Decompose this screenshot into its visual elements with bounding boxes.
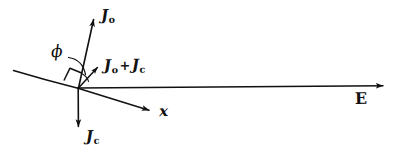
label-e-field: E: [355, 91, 367, 107]
label-j-c-subscript: c: [94, 134, 100, 145]
label-j-zero-subscript: o: [109, 13, 116, 24]
vector-diagram-svg: [0, 0, 404, 162]
figure-canvas: Jo Jo+Jc Jc ϕ x E: [0, 0, 404, 162]
label-j-zero: Jo: [101, 7, 116, 25]
label-j-sum-sub-b: c: [139, 63, 145, 74]
label-j-sum-sub-a: o: [112, 64, 119, 75]
label-j-c-base: J: [86, 127, 94, 145]
label-j-sum-operator: +: [119, 58, 130, 73]
e-field-arrow: [78, 86, 383, 88]
label-j-zero-base: J: [101, 6, 109, 24]
label-j-sum-base-a: J: [104, 56, 111, 74]
label-j-c: Jc: [86, 128, 100, 146]
phi-leader-arc: [69, 58, 86, 75]
label-x-axis: x: [159, 104, 168, 119]
label-j-sum: Jo+Jc: [104, 57, 146, 75]
label-phi: ϕ: [51, 43, 63, 61]
right-angle-marker: [64, 68, 81, 80]
x-axis-arrow: [78, 88, 149, 110]
